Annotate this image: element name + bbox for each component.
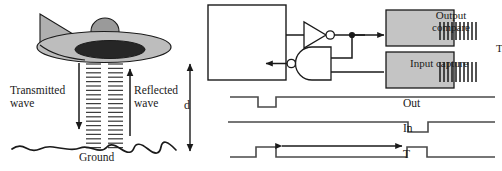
mcu-input-capture-label: Input capture [410,57,468,69]
aircraft-altimeter-scene: Transmitted wave Reflected wave d Ground [0,0,205,171]
waveform-in [228,122,495,132]
waveform-t-label: T [403,148,410,161]
waveform-out [230,97,495,107]
figure-root: Transmitted wave Reflected wave d Ground [0,0,502,171]
wave-beam-transmitted [86,64,101,148]
wire-out-to-nand-input [331,35,352,58]
t-node-label: T [496,42,502,54]
distance-label: d [184,99,190,112]
waveform-out-label: Out [403,97,420,110]
transmitted-wave-label: Transmitted wave [10,84,65,110]
waveform-t [230,147,495,157]
waveform-in-label: In [403,122,413,135]
aircraft-window [75,41,145,59]
circuit-and-timing-panel: Output compare Input capture Out In T Ul… [200,0,502,171]
nand-gate [287,47,331,80]
reflected-wave-label: Reflected wave [134,84,178,110]
wave-beam-reflected [108,64,123,148]
mcu-output-compare-label: Output compare [421,9,481,34]
mcu-box [208,5,286,80]
inverter-gate [304,22,334,48]
ground-label: Ground [79,151,114,164]
